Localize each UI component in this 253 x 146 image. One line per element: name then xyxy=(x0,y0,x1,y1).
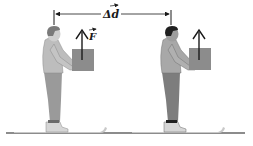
box-left xyxy=(72,49,94,71)
leg-right xyxy=(162,72,180,122)
box-right xyxy=(189,48,211,70)
shoe-right xyxy=(164,122,186,132)
box-after xyxy=(189,30,211,70)
shoe-left xyxy=(46,122,68,132)
leg-left xyxy=(44,72,62,122)
displacement-label: Δd xyxy=(102,8,120,21)
sock-right xyxy=(166,120,177,123)
displacement-indicator: Δd xyxy=(54,5,171,25)
person-before xyxy=(14,26,107,133)
force-vector-arrow xyxy=(89,29,96,30)
sock-left xyxy=(48,120,59,123)
displacement-vector-arrow xyxy=(110,5,118,6)
box-before: F xyxy=(72,29,97,71)
person-after xyxy=(132,26,225,133)
work-diagram: Δd F xyxy=(0,0,253,146)
force-label: F xyxy=(88,31,97,42)
